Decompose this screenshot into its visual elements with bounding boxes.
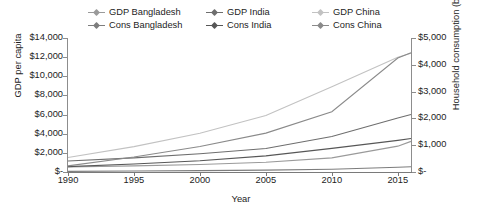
legend-marker-cons-bangladesh <box>88 21 105 30</box>
legend-marker-cons-india <box>206 21 223 30</box>
y-left-tick <box>63 115 67 116</box>
y-right-tick <box>412 92 416 93</box>
legend-marker-gdp-china <box>312 8 329 17</box>
y-right-tick-label: $- <box>418 166 426 176</box>
x-tick-label: 2005 <box>246 175 286 185</box>
y-right-tick-label: $3,000 <box>418 86 446 96</box>
legend-item-gdp-bangladesh[interactable]: GDP Bangladesh <box>88 8 206 17</box>
legend-item-gdp-india[interactable]: GDP India <box>206 8 312 17</box>
y-left-tick <box>63 38 67 39</box>
x-tick-label: 2015 <box>378 175 418 185</box>
y-right-tick <box>412 118 416 119</box>
legend-marker-cons-china <box>312 21 329 30</box>
y-right-tick <box>412 145 416 146</box>
legend-label-cons-china: Cons China <box>333 21 382 30</box>
x-tick-label: 2000 <box>180 175 220 185</box>
series-line-gdp-india <box>68 115 411 161</box>
y-left-tick-label: $8,000 <box>35 89 63 99</box>
y-right-tick-label: $2,000 <box>418 112 446 122</box>
series-line-cons-bangladesh <box>68 167 411 172</box>
legend-label-gdp-bangladesh: GDP Bangladesh <box>109 8 181 17</box>
x-tick-label: 1990 <box>48 175 88 185</box>
x-axis-title: Year <box>0 193 482 204</box>
series-line-gdp-china <box>68 53 411 157</box>
y-right-tick-label: $1,000 <box>418 139 446 149</box>
plot-area: $-$2,000$4,000$6,000$8,000$10,000$12,000… <box>68 38 411 172</box>
y-right-tick-label: $5,000 <box>418 32 446 42</box>
y-left-tick <box>63 76 67 77</box>
legend-marker-gdp-bangladesh <box>88 8 105 17</box>
legend-item-cons-china[interactable]: Cons China <box>312 21 418 30</box>
y-left-tick-label: $12,000 <box>29 51 63 61</box>
chart-root: GDP Bangladesh GDP India GDP China Cons … <box>0 0 482 214</box>
legend-label-gdp-india: GDP India <box>227 8 270 17</box>
y-axis-right-title: Household consumption (billion) <box>450 0 461 114</box>
y-left-tick <box>63 153 67 154</box>
legend-label-cons-bangladesh: Cons Bangladesh <box>109 21 182 30</box>
legend-item-cons-bangladesh[interactable]: Cons Bangladesh <box>88 21 206 30</box>
y-left-tick-label: $10,000 <box>29 70 63 80</box>
legend-label-cons-india: Cons India <box>227 21 271 30</box>
legend-item-gdp-china[interactable]: GDP China <box>312 8 418 17</box>
series-lines <box>68 38 411 172</box>
legend-marker-gdp-india <box>206 8 223 17</box>
y-left-tick <box>63 95 67 96</box>
y-left-tick-label: $2,000 <box>35 147 63 157</box>
y-axis-right-line <box>411 38 412 172</box>
y-axis-left-title: GDP per capita <box>12 18 23 114</box>
y-left-tick <box>63 172 67 173</box>
y-left-tick <box>63 57 67 58</box>
y-right-tick <box>412 38 416 39</box>
y-right-tick <box>412 65 416 66</box>
x-tick-label: 2010 <box>312 175 352 185</box>
y-right-tick <box>412 172 416 173</box>
y-left-tick-label: $14,000 <box>29 32 63 42</box>
y-left-tick-label: $4,000 <box>35 128 63 138</box>
chart-legend: GDP Bangladesh GDP India GDP China Cons … <box>88 6 418 32</box>
y-right-tick-label: $4,000 <box>418 59 446 69</box>
legend-item-cons-india[interactable]: Cons India <box>206 21 312 30</box>
y-left-tick <box>63 134 67 135</box>
legend-label-gdp-china: GDP China <box>333 8 380 17</box>
x-axis-line <box>67 172 412 173</box>
y-left-tick-label: $6,000 <box>35 109 63 119</box>
x-tick-label: 1995 <box>114 175 154 185</box>
